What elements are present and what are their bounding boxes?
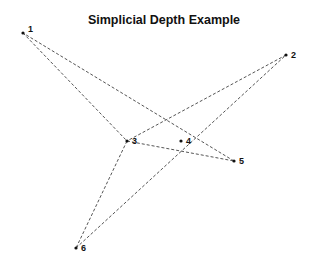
triangle-edge-3-5 [127,141,234,161]
data-point-5 [232,159,235,162]
data-point-3 [125,139,128,142]
point-label-6: 6 [81,243,86,253]
data-point-4 [179,139,182,142]
triangle-edge-5-1 [23,33,234,161]
point-label-5: 5 [239,156,244,166]
data-point-1 [21,31,24,34]
triangle-edge-6-2 [76,55,286,248]
triangle-edge-3-6 [76,141,127,248]
point-label-3: 3 [132,136,137,146]
simplicial-depth-chart: Simplicial Depth Example 123456 [0,0,314,264]
triangle-edge-1-3 [23,33,127,141]
plot-area: 123456 [0,0,314,264]
chart-title: Simplicial Depth Example [0,13,314,27]
point-label-2: 2 [291,50,296,60]
point-label-4: 4 [186,136,191,146]
data-point-2 [284,53,287,56]
data-point-6 [74,246,77,249]
